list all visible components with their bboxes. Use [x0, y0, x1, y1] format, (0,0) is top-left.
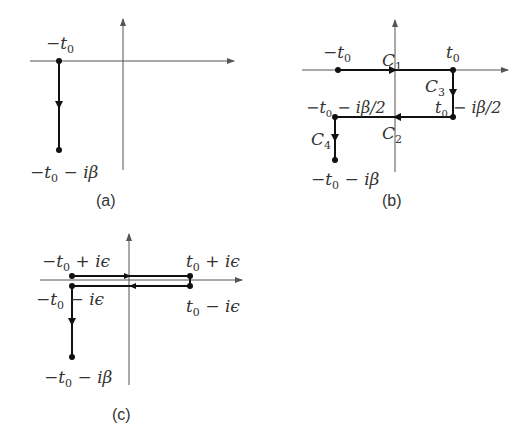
arrow-right-icon	[124, 273, 131, 279]
point-t0	[450, 67, 456, 73]
arrow-left-icon	[129, 283, 136, 289]
caption-b: (b)	[382, 192, 402, 209]
label-start: −t0	[46, 33, 74, 56]
caption-a: (a)	[96, 192, 116, 209]
label-start: −t0	[323, 42, 351, 65]
arrow-down-icon	[55, 101, 63, 109]
arrow-down-icon	[68, 318, 76, 326]
label-right-mid: t0 − iβ/2	[435, 98, 501, 119]
label-end: −t0 − iβ	[30, 162, 99, 185]
end-point	[56, 147, 62, 153]
label-end: −t0 − iβ	[44, 367, 113, 390]
point-bottom-right	[187, 283, 193, 289]
point-end	[332, 157, 338, 163]
contour-diagram: −t0 −t0 − iβ (a) −t0 C1 t0	[0, 0, 528, 440]
point-end	[69, 354, 75, 360]
panel-a: −t0 −t0 − iβ (a)	[30, 19, 234, 209]
label-c4: C4	[311, 129, 331, 152]
label-top-right: t0 + iϵ	[186, 251, 240, 274]
panel-c: −t0 + iϵ t0 + iϵ −t0 − iϵ t0 − iϵ −t0 − …	[36, 234, 242, 423]
point-start	[335, 67, 341, 73]
arrow-down-icon	[449, 89, 457, 97]
start-point	[56, 58, 62, 64]
panel-b: −t0 C1 t0 C3 t0 − iβ/2 −t0 − iβ/2 C2 C4 …	[302, 20, 508, 209]
label-c1: C1	[382, 50, 402, 73]
label-end: −t0 − iβ	[311, 169, 380, 192]
figure-canvas: −t0 −t0 − iβ (a) −t0 C1 t0	[0, 0, 528, 440]
label-bottom-right: t0 − iϵ	[186, 296, 240, 319]
label-bottom-left: −t0 − iϵ	[36, 289, 105, 312]
label-c2: C2	[382, 123, 402, 146]
label-c3: C3	[425, 76, 445, 99]
caption-c: (c)	[112, 406, 131, 423]
label-top-left: −t0 + iϵ	[42, 251, 111, 274]
label-t0: t0	[446, 42, 460, 65]
label-left-mid: −t0 − iβ/2	[306, 98, 386, 119]
arrow-down-icon	[331, 134, 339, 142]
arrow-left-icon	[393, 113, 401, 121]
